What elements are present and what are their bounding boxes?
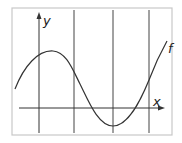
x-axis-label: x <box>152 94 161 109</box>
y-axis-label: y <box>42 13 51 28</box>
function-graph: y x f <box>0 0 182 143</box>
function-label: f <box>168 41 175 56</box>
frame <box>12 8 172 135</box>
